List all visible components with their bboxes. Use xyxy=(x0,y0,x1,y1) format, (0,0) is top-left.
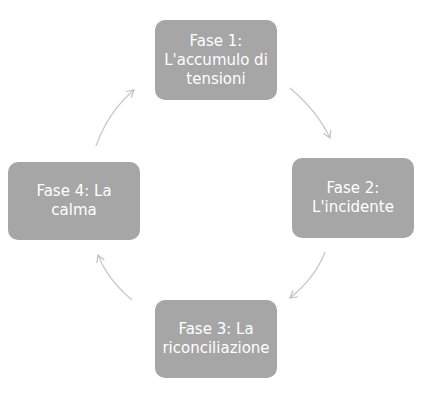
arrow-2-to-3 xyxy=(290,252,325,298)
arrow-1-to-2 xyxy=(290,88,330,138)
arrow-4-to-1 xyxy=(96,90,134,146)
phase-4-label: Fase 4: La calma xyxy=(16,182,132,220)
phase-1-label: Fase 1: L'accumulo di tensioni xyxy=(163,32,269,89)
phase-3-label: Fase 3: La riconciliazione xyxy=(162,320,269,358)
phase-2-label: Fase 2: L'incidente xyxy=(300,179,406,217)
arrow-3-to-4 xyxy=(98,255,132,300)
phase-4-box: Fase 4: La calma xyxy=(8,162,140,240)
phase-2-box: Fase 2: L'incidente xyxy=(292,158,414,238)
phase-3-box: Fase 3: La riconciliazione xyxy=(155,300,277,378)
phase-1-box: Fase 1: L'accumulo di tensioni xyxy=(155,20,277,100)
